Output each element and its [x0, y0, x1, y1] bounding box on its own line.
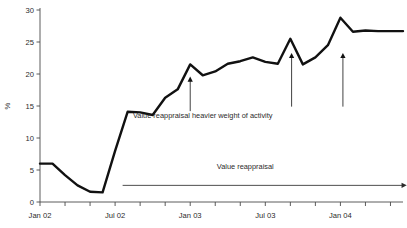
y-tick-label: 30 — [26, 6, 34, 15]
y-axis-title: % — [3, 102, 12, 109]
span-arrow — [123, 183, 407, 188]
line-chart: 051015202530 Jan 02Jul 02Jan 03Jul 03Jan… — [0, 0, 407, 228]
y-tick-label: 5 — [30, 166, 34, 175]
y-tick-label: 25 — [26, 38, 34, 47]
y-tick-label: 10 — [26, 134, 34, 143]
annotation-label: Value reappraisal heavier weight of acti… — [133, 111, 273, 120]
x-tick-label: Jan 04 — [329, 211, 352, 220]
callout-arrow — [340, 53, 345, 107]
y-tick-label: 20 — [26, 70, 34, 79]
chart-container: 051015202530 Jan 02Jul 02Jan 03Jul 03Jan… — [0, 0, 407, 228]
annotations-layer: Value reappraisal heavier weight of acti… — [123, 53, 407, 188]
callout-arrow — [289, 53, 294, 107]
annotation-label: Value reappraisal — [217, 162, 274, 171]
callout-arrow — [188, 77, 193, 112]
x-tick-label: Jul 03 — [255, 211, 275, 220]
x-tick-label: Jul 02 — [105, 211, 125, 220]
y-tick-label: 15 — [26, 102, 34, 111]
x-axis: Jan 02Jul 02Jan 03Jul 03Jan 04 — [29, 202, 403, 220]
x-tick-label: Jan 03 — [179, 211, 202, 220]
y-tick-label: 0 — [30, 198, 34, 207]
y-axis: 051015202530 — [26, 6, 40, 207]
x-tick-label: Jan 02 — [29, 211, 52, 220]
